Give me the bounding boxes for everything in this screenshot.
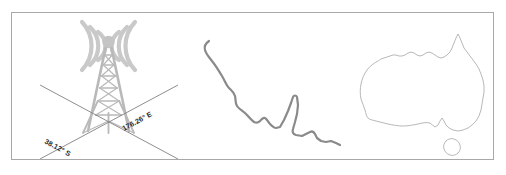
tasmania-island-path bbox=[444, 139, 461, 156]
figure-panel: Radio broadcast tower with signal waves bbox=[11, 12, 494, 160]
coastline-trace: Coastline outline trace bbox=[192, 17, 342, 159]
australia-outline-map: Outline map of Australia bbox=[342, 15, 494, 159]
coastline-path bbox=[205, 41, 340, 145]
radio-tower-illustration: Radio broadcast tower with signal waves bbox=[20, 13, 195, 159]
australia-mainland-path bbox=[360, 34, 484, 131]
antenna-sphere-icon bbox=[102, 36, 114, 48]
